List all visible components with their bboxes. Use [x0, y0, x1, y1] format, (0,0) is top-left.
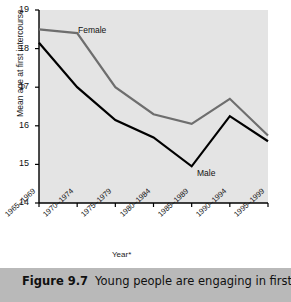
y-tick-label: 15 — [13, 158, 29, 168]
y-tick-label: 17 — [13, 81, 29, 91]
y-axis-title: Mean age at first intercourse — [15, 0, 25, 133]
line-chart-svg — [0, 0, 291, 268]
y-tick-label: 16 — [13, 120, 29, 130]
figure-caption-label: Figure 9.7 — [22, 274, 88, 288]
figure-caption-bar: Figure 9.7Young people are engaging in f… — [0, 268, 291, 302]
chart-area: Mean age at first intercourse Year* 1415… — [0, 0, 291, 268]
figure-caption-text: Young people are engaging in first — [95, 274, 291, 288]
figure-container: Mean age at first intercourse Year* 1415… — [0, 0, 291, 302]
series-label-male: Male — [197, 168, 215, 178]
x-axis-title: Year* — [112, 250, 131, 259]
series-label-female: Female — [78, 25, 106, 35]
y-tick-label: 18 — [13, 43, 29, 53]
y-tick-label: 19 — [13, 4, 29, 14]
plot-background — [39, 10, 268, 203]
figure-caption: Figure 9.7Young people are engaging in f… — [22, 274, 284, 289]
